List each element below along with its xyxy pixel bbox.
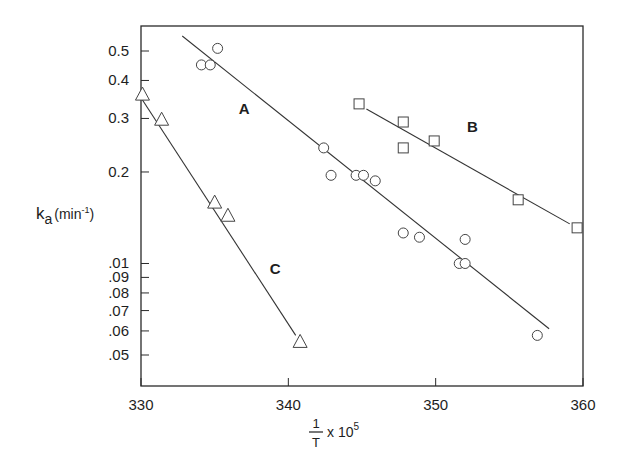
x-axis-title-multiplier-base: x 10	[327, 424, 354, 440]
circle-marker	[460, 234, 470, 244]
y-tick-label: .05	[108, 346, 129, 363]
y-tick-label: 0.4	[108, 71, 129, 88]
x-axis-ticks: 330340350360	[128, 378, 595, 413]
x-axis-title-denominator: T	[312, 435, 320, 450]
square-marker	[398, 117, 408, 127]
circle-marker	[460, 258, 470, 268]
triangle-marker	[293, 334, 307, 347]
y-tick-label: .07	[108, 302, 129, 319]
triangle-marker	[221, 208, 235, 221]
x-axis-title-multiplier: x 105	[327, 421, 359, 440]
fit-line-a	[182, 36, 549, 329]
y-axis-title-unit-exp: -1	[82, 205, 90, 215]
circle-marker	[370, 176, 380, 186]
triangle-marker	[155, 112, 169, 125]
series-label-c: C	[270, 260, 281, 277]
circle-marker	[205, 60, 215, 70]
triangle-marker	[208, 195, 222, 208]
square-marker	[513, 195, 523, 205]
x-tick-label: 360	[570, 396, 595, 413]
circle-marker	[326, 170, 336, 180]
plot-frame	[141, 26, 583, 386]
square-marker	[398, 143, 408, 153]
x-tick-label: 330	[128, 396, 153, 413]
circle-marker	[532, 330, 542, 340]
y-axis-title-unit: (min	[54, 206, 81, 222]
x-axis-title-exponent: 5	[353, 421, 359, 432]
y-tick-label: .06	[108, 322, 129, 339]
circle-marker	[358, 170, 368, 180]
circle-marker	[213, 43, 223, 53]
series-labels: ABC	[239, 100, 478, 277]
x-axis-title-numerator: 1	[312, 416, 319, 431]
x-tick-label: 350	[423, 396, 448, 413]
y-tick-label: 0.5	[108, 42, 129, 59]
circle-marker	[414, 232, 424, 242]
series-label-b: B	[467, 118, 478, 135]
y-tick-label: .08	[108, 284, 129, 301]
x-axis-title: 1 T x 105	[309, 416, 359, 450]
y-tick-label: 0.2	[108, 163, 129, 180]
x-tick-label: 340	[276, 396, 301, 413]
y-axis-title-unit-close: )	[90, 206, 95, 222]
circle-marker	[319, 143, 329, 153]
y-tick-label: 0.3	[108, 109, 129, 126]
fit-lines	[142, 36, 569, 335]
circle-marker	[398, 228, 408, 238]
plot-border	[141, 26, 583, 386]
square-marker	[429, 136, 439, 146]
triangle-marker	[135, 87, 149, 100]
y-axis-title: ka(min-1)	[36, 204, 94, 227]
square-marker	[572, 223, 582, 233]
y-axis-title-subscript: a	[45, 211, 53, 227]
series-label-a: A	[239, 100, 250, 117]
fit-line-c	[142, 100, 295, 335]
arrhenius-chart: 0.50.40.30.2.01.09.08.07.06.05 330340350…	[0, 0, 629, 473]
square-marker	[354, 99, 364, 109]
y-tick-label: .09	[108, 268, 129, 285]
